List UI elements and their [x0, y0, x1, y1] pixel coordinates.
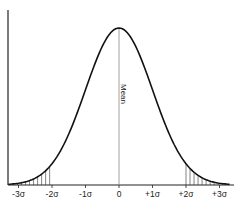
mean-label: Mean [119, 84, 128, 104]
x-tick-label: 0 [117, 189, 122, 199]
normal-distribution-chart: -3σ-2σ-1σ0+1σ+2σ+3σ Mean [0, 0, 240, 203]
x-tick-label: +2σ [179, 189, 195, 199]
right-tail-shading [186, 164, 226, 185]
left-tail-shading [9, 167, 49, 185]
x-tick-label: -2σ [46, 189, 60, 199]
x-tick-label: +3σ [212, 189, 228, 199]
x-axis-ticks: -3σ-2σ-1σ0+1σ+2σ+3σ [12, 185, 228, 199]
x-tick-label: -3σ [12, 189, 26, 199]
x-tick-label: -1σ [79, 189, 93, 199]
x-tick-label: +1σ [145, 189, 161, 199]
